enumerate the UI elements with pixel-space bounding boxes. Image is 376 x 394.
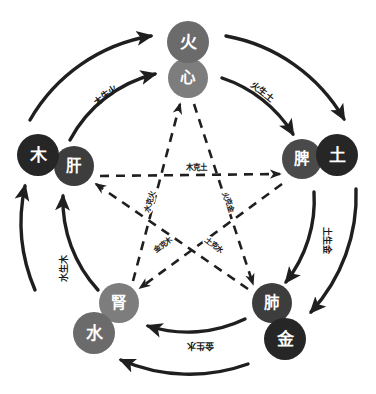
generating-label-wood-fire: 木生火 xyxy=(91,81,121,108)
restraining-pentagram xyxy=(96,104,282,289)
node-layer: 心火脾土肺金腎水肝木 xyxy=(17,21,358,360)
restraining-label-wood-earth: 木克土 xyxy=(185,162,208,172)
restraining-label-fire-metal: 火克金 xyxy=(220,190,236,214)
metal-node-label: 金 xyxy=(276,329,295,349)
wood-node[interactable]: 木 xyxy=(17,134,59,176)
arc-spleen-lung-inner xyxy=(286,192,314,282)
node-pair-water: 腎水 xyxy=(73,283,139,354)
earth-node[interactable]: 土 xyxy=(316,134,358,176)
fire-node[interactable]: 火 xyxy=(167,21,209,63)
arc-lung-kidney-inner xyxy=(148,319,245,332)
heart-node[interactable]: 心 xyxy=(168,58,208,98)
wood-node-label: 木 xyxy=(29,145,48,165)
lung-node-label: 肺 xyxy=(264,293,280,312)
node-pair-earth: 脾土 xyxy=(282,134,358,179)
node-pair-fire: 心火 xyxy=(167,21,209,98)
liver-node[interactable]: 肝 xyxy=(54,146,94,186)
water-node-label: 水 xyxy=(86,323,104,343)
five-elements-diagram: 心火脾土肺金腎水肝木 木生火火生土土生金金生水水生木 木克土木克土土克水土克水水… xyxy=(0,0,376,394)
diagram-canvas: 心火脾土肺金腎水肝木 木生火火生土土生金金生水水生木 木克土木克土土克水土克水水… xyxy=(0,0,376,394)
generating-label-earth-metal: 土生金 xyxy=(322,227,333,255)
arc-wood-fire-outer xyxy=(30,36,151,120)
generating-label-water-wood: 水生木 xyxy=(58,254,69,282)
metal-node[interactable]: 金 xyxy=(264,318,306,360)
generating-label-layer: 木生火火生土土生金金生水水生木 xyxy=(58,79,333,352)
water-node[interactable]: 水 xyxy=(73,312,115,354)
spleen-node-label: 脾 xyxy=(294,149,310,168)
node-pair-metal: 肺金 xyxy=(252,283,306,360)
arc-fire-earth-outer xyxy=(226,36,344,119)
restraining-label-metal-wood: 金克木 xyxy=(151,234,175,256)
restraining-label-earth-water: 土克水 xyxy=(203,234,226,255)
node-pair-wood: 肝木 xyxy=(17,134,94,186)
arc-water-wood-outer xyxy=(21,186,35,290)
heart-node-label: 心 xyxy=(180,69,196,87)
arc-earth-metal-outer xyxy=(311,189,356,312)
liver-node-label: 肝 xyxy=(66,157,82,175)
lung-node[interactable]: 肺 xyxy=(252,283,292,323)
spleen-node[interactable]: 脾 xyxy=(282,139,322,179)
kidney-node-label: 腎 xyxy=(111,294,127,312)
line-wood-earth xyxy=(100,174,280,176)
arc-metal-water-outer xyxy=(121,360,248,374)
fire-node-label: 火 xyxy=(180,32,198,52)
generating-label-metal-water: 金生水 xyxy=(186,341,215,352)
earth-node-label: 土 xyxy=(329,145,346,165)
